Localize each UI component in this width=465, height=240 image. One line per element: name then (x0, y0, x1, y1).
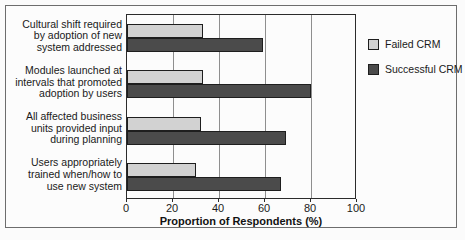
bar-successful-crm (127, 177, 281, 191)
bar-successful-crm (127, 131, 286, 145)
category-label-line: use new system (8, 181, 122, 193)
x-tick-label: 0 (123, 202, 129, 214)
bar-group (127, 15, 355, 61)
x-axis-title: Proportion of Respondents (%) (126, 215, 356, 227)
x-tick-label: 60 (258, 202, 270, 214)
bar-failed-crm (127, 117, 201, 131)
bar-successful-crm (127, 38, 263, 52)
category-label: Users appropriatelytrained when/how tous… (8, 157, 122, 192)
legend-swatch-icon (368, 64, 379, 75)
bar-group (127, 154, 355, 200)
x-tick-label: 40 (212, 202, 224, 214)
bar-failed-crm (127, 163, 196, 177)
legend-label: Failed CRM (385, 38, 440, 50)
category-label-line: system addressed (8, 42, 122, 54)
x-tick-label: 80 (304, 202, 316, 214)
chart-legend: Failed CRMSuccessful CRM (368, 38, 458, 88)
legend-item: Successful CRM (368, 63, 458, 75)
plot-area (126, 14, 356, 199)
category-label-line: trained when/how to (8, 169, 122, 181)
category-label: Modules launched atintervals that promot… (8, 65, 122, 100)
bar-failed-crm (127, 70, 203, 84)
chart-figure: Cultural shift requiredby adoption of ne… (0, 0, 465, 240)
category-axis-labels: Cultural shift requiredby adoption of ne… (8, 14, 122, 199)
category-label-line: adoption by users (8, 88, 122, 100)
bar-successful-crm (127, 84, 311, 98)
x-axis-ticks: 020406080100 (126, 199, 356, 215)
bar-group (127, 108, 355, 154)
x-tick-label: 100 (347, 202, 365, 214)
legend-item: Failed CRM (368, 38, 458, 50)
category-label: Cultural shift requiredby adoption of ne… (8, 19, 122, 54)
bar-failed-crm (127, 24, 203, 38)
x-tick-label: 20 (166, 202, 178, 214)
category-label-line: during planning (8, 134, 122, 146)
bar-group (127, 61, 355, 107)
legend-label: Successful CRM (385, 63, 463, 75)
legend-swatch-icon (368, 39, 379, 50)
category-label-line: Modules launched at (8, 65, 122, 77)
category-label: All affected businessunits provided inpu… (8, 111, 122, 146)
